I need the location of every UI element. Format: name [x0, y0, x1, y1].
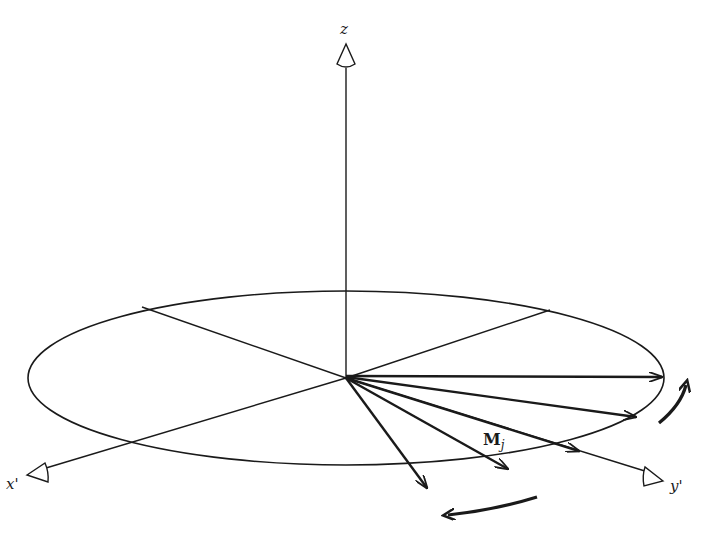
x-axis-label: x': [6, 477, 19, 492]
vector-2: [346, 377, 636, 417]
y-axis-label: y': [670, 479, 683, 494]
z-axis-arrowhead-icon: [337, 44, 355, 67]
vector-5: [346, 378, 427, 488]
upper-right-plane-line: [346, 310, 550, 378]
rotation-arrow-right-icon: [659, 385, 686, 423]
vector-4: [346, 378, 508, 469]
vector-3: [346, 378, 579, 451]
vector-1: [346, 376, 662, 377]
y-axis-arrowhead-icon: [643, 467, 663, 486]
diagram-svg: [0, 0, 701, 533]
diagram-canvas: z x' y' Mj: [0, 0, 701, 533]
z-axis-label: z: [340, 22, 348, 37]
x-axis-arrowhead-icon: [27, 463, 48, 482]
upper-left-plane-line: [142, 307, 346, 378]
rotation-arrow-bottom-icon: [448, 497, 537, 515]
vector-label: Mj: [483, 432, 504, 451]
